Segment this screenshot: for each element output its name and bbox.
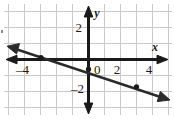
y-axis-arrow-down [84,103,93,114]
x-tick-label-4: 4 [146,62,153,77]
y-tick-label-neg2: –2 [70,81,84,96]
y-tick-label-2: 2 [76,20,83,35]
point-x-intercept [38,55,43,60]
point-y-intercept [86,67,91,72]
graph-canvas: –4 2 4 2 –2 0 x y [0,0,174,119]
y-axis-label: y [92,6,100,20]
axis-name-labels: x y [92,6,158,54]
x-axis-label: x [151,40,158,54]
point-right [134,84,139,89]
coordinate-plane-figure: –4 2 4 2 –2 0 x y [0,0,174,119]
x-axis-arrow-right [157,55,168,64]
x-tick-label-neg4: –4 [15,62,30,77]
axes [6,6,168,114]
x-tick-label-2: 2 [114,62,121,77]
tick-labels: –4 2 4 2 –2 0 [15,20,153,96]
origin-label: 0 [94,62,101,77]
